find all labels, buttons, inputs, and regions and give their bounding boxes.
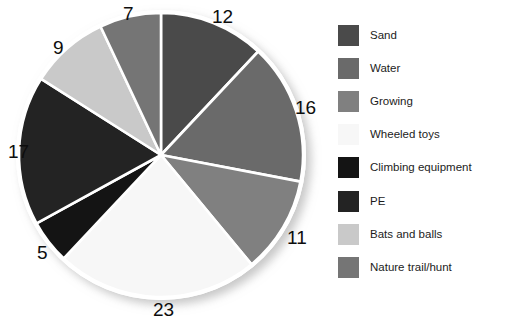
pie-value-label: 12: [212, 7, 233, 26]
pie-value-label: 16: [295, 98, 316, 117]
pie-plot-area: 1216112351797: [0, 0, 330, 326]
legend-item-label: Sand: [370, 29, 397, 42]
pie-svg: [0, 0, 330, 326]
legend-item[interactable]: Nature trail/hunt: [338, 256, 452, 278]
legend-color-swatch: [338, 91, 359, 112]
legend-item[interactable]: Wheeled toys: [338, 124, 440, 146]
legend-item[interactable]: Water: [338, 57, 400, 79]
legend-color-swatch: [338, 25, 359, 46]
pie-chart-figure: 1216112351797 SandWaterGrowingWheeled to…: [0, 0, 505, 326]
legend-item-label: Bats and balls: [370, 228, 442, 241]
pie-value-label: 7: [123, 4, 134, 23]
legend: SandWaterGrowingWheeled toysClimbing equ…: [338, 24, 505, 304]
legend-item[interactable]: Growing: [338, 90, 413, 112]
pie-value-label: 5: [37, 243, 48, 262]
legend-item[interactable]: Climbing equipment: [338, 157, 472, 179]
legend-item[interactable]: Sand: [338, 24, 397, 46]
legend-item[interactable]: PE: [338, 190, 385, 212]
legend-color-swatch: [338, 257, 359, 278]
pie-value-label: 17: [8, 142, 29, 161]
legend-item-label: Growing: [370, 95, 413, 108]
pie-value-label: 23: [153, 300, 174, 319]
legend-item-label: Wheeled toys: [370, 128, 440, 141]
legend-item-label: Climbing equipment: [370, 161, 472, 174]
legend-item-label: Water: [370, 62, 400, 75]
legend-color-swatch: [338, 124, 359, 145]
legend-color-swatch: [338, 157, 359, 178]
pie-value-label: 9: [53, 38, 64, 57]
legend-item[interactable]: Bats and balls: [338, 223, 442, 245]
legend-item-label: PE: [370, 195, 385, 208]
legend-color-swatch: [338, 191, 359, 212]
pie-value-label: 11: [287, 228, 307, 247]
legend-color-swatch: [338, 58, 359, 79]
legend-item-label: Nature trail/hunt: [370, 261, 452, 274]
legend-color-swatch: [338, 224, 359, 245]
